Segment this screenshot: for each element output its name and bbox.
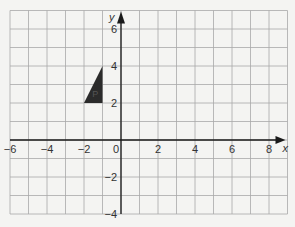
y-tick-label: −2 bbox=[104, 171, 117, 183]
x-tick-label: 8 bbox=[266, 143, 272, 155]
x-tick-label: −2 bbox=[78, 143, 91, 155]
x-tick-label: 2 bbox=[155, 143, 161, 155]
grid-lines bbox=[10, 11, 288, 215]
y-tick-label: 4 bbox=[111, 60, 117, 72]
x-axis-label: x bbox=[282, 142, 289, 154]
x-tick-label: −4 bbox=[41, 143, 54, 155]
y-tick-label: 6 bbox=[111, 23, 117, 35]
axes: x y bbox=[10, 11, 289, 215]
x-tick-label: 4 bbox=[192, 143, 198, 155]
x-tick-label: −6 bbox=[4, 143, 17, 155]
x-tick-label: 6 bbox=[229, 143, 235, 155]
coordinate-grid: P x y −6−4−202468 642−2−4 bbox=[0, 0, 295, 227]
y-axis-label: y bbox=[108, 11, 116, 23]
shape-label: P bbox=[92, 89, 98, 99]
x-tick-label: 0 bbox=[113, 143, 119, 155]
y-tick-label: 2 bbox=[111, 97, 117, 109]
y-tick-label: −4 bbox=[104, 208, 117, 220]
y-axis-arrow-icon bbox=[117, 12, 125, 24]
x-tick-labels: −6−4−202468 bbox=[4, 143, 272, 155]
